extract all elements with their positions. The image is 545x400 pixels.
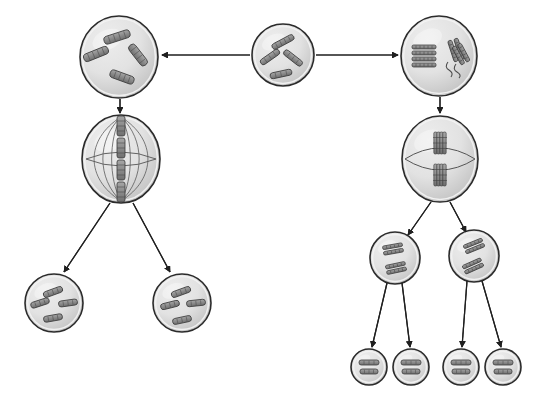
chromosome-2	[452, 369, 470, 374]
metaphase-chromosome-1	[117, 116, 125, 136]
arrow-secondary-left-to-gamete-2	[402, 283, 410, 347]
arrow-secondary-right-to-gamete-3	[462, 281, 467, 347]
cell-membrane	[393, 349, 429, 385]
arrow-meiosis-to-secondary-right	[450, 202, 466, 232]
arrow-secondary-left-to-gamete-1	[372, 283, 387, 347]
metaphase-chromosome-3	[117, 160, 125, 180]
gamete-cell-4	[485, 349, 521, 385]
metaphase-chromosome-4	[117, 182, 125, 202]
chromosome-2	[402, 369, 420, 374]
cell-division-diagram	[0, 0, 545, 400]
chromosome-1	[359, 360, 379, 365]
cell-membrane	[443, 349, 479, 385]
cell-membrane	[449, 230, 499, 282]
cell-membrane	[402, 116, 478, 202]
arrow-secondary-right-to-gamete-4	[482, 281, 501, 347]
parent-cell	[252, 24, 314, 86]
meiosis-metaphase-cell	[402, 116, 478, 202]
meiosis-secondary-cell-left	[370, 232, 420, 284]
tetrad-upper	[433, 132, 447, 154]
chromosome-1	[451, 360, 471, 365]
diagram-canvas	[0, 0, 545, 400]
gamete-cell-3	[443, 349, 479, 385]
cell-membrane	[485, 349, 521, 385]
metaphase-chromosome-2	[117, 138, 125, 158]
cell-membrane	[351, 349, 387, 385]
chromosome-1	[401, 360, 421, 365]
cell-layer	[25, 16, 521, 385]
meiosis-prophase-cell	[401, 16, 477, 96]
chromosome-1	[493, 360, 513, 365]
arrow-mitosis-to-daughter-left	[64, 203, 110, 272]
mitosis-daughter-cell-right	[153, 274, 211, 332]
cell-membrane	[370, 232, 420, 284]
mitosis-metaphase-cell	[82, 115, 160, 203]
gamete-cell-1	[351, 349, 387, 385]
arrow-mitosis-to-daughter-right	[133, 203, 170, 272]
tetrad-lower	[433, 164, 447, 186]
meiosis-secondary-cell-right	[449, 230, 499, 282]
arrow-meiosis-to-secondary-left	[408, 202, 431, 235]
chromosome-2	[494, 369, 512, 374]
mitosis-prophase-cell	[80, 16, 158, 98]
gamete-cell-2	[393, 349, 429, 385]
chromosome-2	[360, 369, 378, 374]
mitosis-daughter-cell-left	[25, 274, 83, 332]
